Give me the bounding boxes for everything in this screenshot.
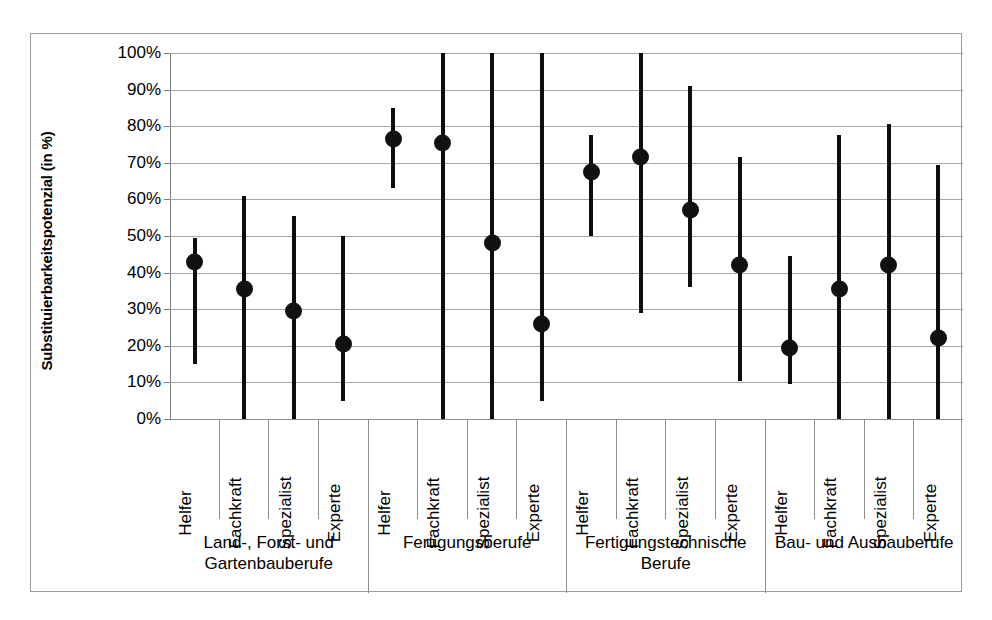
gridline	[170, 126, 963, 127]
y-axis-tick-label: 10%	[127, 372, 161, 392]
group-label-band: Land-, Forst- und GartenbauberufeFertigu…	[170, 519, 963, 593]
y-axis-tick-label: 40%	[127, 263, 161, 283]
y-axis-tick-label: 0%	[136, 409, 161, 429]
y-axis-tick-label: 20%	[127, 336, 161, 356]
gridline	[170, 53, 963, 54]
range-whisker	[441, 53, 445, 419]
y-axis-tick	[164, 53, 170, 54]
value-dot	[781, 339, 798, 356]
y-axis-tick	[164, 273, 170, 274]
category-label-cell: Helfer	[766, 420, 816, 519]
range-whisker	[688, 86, 692, 287]
range-whisker	[589, 135, 593, 236]
y-axis-tick	[164, 309, 170, 310]
value-dot	[434, 134, 451, 151]
value-dot	[831, 281, 848, 298]
range-whisker	[936, 165, 940, 419]
value-dot	[731, 257, 748, 274]
value-dot	[335, 335, 352, 352]
category-label-cell: Experte	[517, 420, 567, 519]
y-axis-tick	[164, 382, 170, 383]
range-whisker	[540, 53, 544, 401]
category-label-cell: Experte	[914, 420, 963, 519]
y-axis-tick-label: 30%	[127, 299, 161, 319]
value-dot	[583, 163, 600, 180]
gridline	[170, 163, 963, 164]
gridline	[170, 90, 963, 91]
group-label-cell: Bau- und Ausbauberufe	[766, 519, 964, 593]
category-label-cell: Spezialist	[666, 420, 716, 519]
y-axis-tick-label: 70%	[127, 153, 161, 173]
value-dot	[285, 303, 302, 320]
value-dot	[880, 257, 897, 274]
value-dot	[930, 330, 947, 347]
y-axis-tick	[164, 163, 170, 164]
group-label-cell: Fertigungstechnische Berufe	[567, 519, 766, 593]
range-whisker	[341, 236, 345, 401]
plot-area: 0%10%20%30%40%50%60%70%80%90%100%	[170, 53, 963, 419]
gridline	[170, 199, 963, 200]
y-axis-tick-label: 80%	[127, 116, 161, 136]
range-whisker	[837, 135, 841, 419]
category-label-cell: Fachkraft	[617, 420, 667, 519]
group-label: Land-, Forst- und Gartenbauberufe	[170, 533, 368, 574]
range-whisker	[788, 256, 792, 384]
value-dot	[682, 202, 699, 219]
gridline	[170, 273, 963, 274]
category-label-cell: Fachkraft	[220, 420, 270, 519]
range-whisker	[242, 196, 246, 419]
range-whisker	[639, 53, 643, 313]
value-dot	[484, 235, 501, 252]
category-label-cell: Helfer	[567, 420, 617, 519]
value-dot	[236, 281, 253, 298]
category-label-band: HelferFachkraftSpezialistExperteHelferFa…	[170, 419, 963, 519]
category-label-cell: Helfer	[170, 420, 220, 519]
group-label: Bau- und Ausbauberufe	[775, 533, 954, 554]
y-axis-title: Substituierbarkeitspotenzial (in %)	[33, 68, 61, 434]
group-label-cell: Fertigungsberufe	[369, 519, 568, 593]
y-axis-tick	[164, 199, 170, 200]
chart-figure: Substituierbarkeitspotenzial (in %) 0%10…	[30, 33, 962, 592]
category-label-cell: Spezialist	[269, 420, 319, 519]
value-dot	[533, 315, 550, 332]
category-label-cell: Spezialist	[865, 420, 915, 519]
category-label-cell: Helfer	[369, 420, 419, 519]
category-label-cell: Experte	[716, 420, 766, 519]
y-axis-tick-label: 100%	[118, 43, 161, 63]
group-label: Fertigungsberufe	[403, 533, 532, 554]
group-label: Fertigungstechnische Berufe	[567, 533, 765, 574]
category-label-cell: Spezialist	[468, 420, 518, 519]
gridline	[170, 346, 963, 347]
value-dot	[632, 149, 649, 166]
category-label-cell: Fachkraft	[418, 420, 468, 519]
range-whisker	[391, 108, 395, 189]
value-dot	[385, 131, 402, 148]
gridline	[170, 382, 963, 383]
y-axis-tick	[164, 236, 170, 237]
y-axis-tick-label: 50%	[127, 226, 161, 246]
group-label-cell: Land-, Forst- und Gartenbauberufe	[170, 519, 369, 593]
y-axis-tick	[164, 90, 170, 91]
value-dot	[186, 253, 203, 270]
gridline	[170, 236, 963, 237]
y-axis-tick-label: 60%	[127, 189, 161, 209]
category-label-cell: Fachkraft	[815, 420, 865, 519]
category-label-cell: Experte	[319, 420, 369, 519]
y-axis-tick	[164, 126, 170, 127]
y-axis-tick-label: 90%	[127, 80, 161, 100]
y-axis-tick	[164, 346, 170, 347]
